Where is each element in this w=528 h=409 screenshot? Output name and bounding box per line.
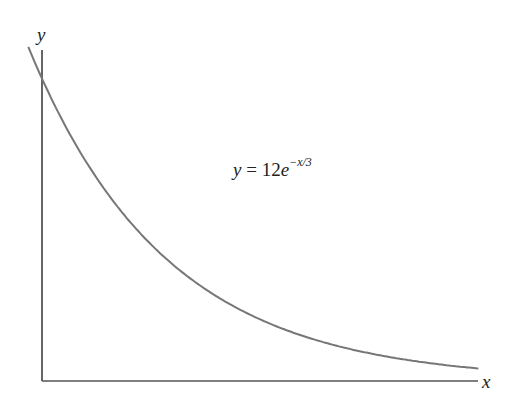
eq-mid: = 12: [241, 159, 280, 180]
y-axis-label: y: [37, 24, 45, 46]
x-axis-label: x: [482, 371, 490, 393]
chart-canvas: [0, 0, 528, 409]
exponential-curve: [28, 47, 478, 369]
eq-exponent: −x/3: [289, 155, 312, 169]
equation-annotation: y = 12e−x/3: [233, 158, 312, 181]
eq-base: e: [281, 159, 289, 180]
